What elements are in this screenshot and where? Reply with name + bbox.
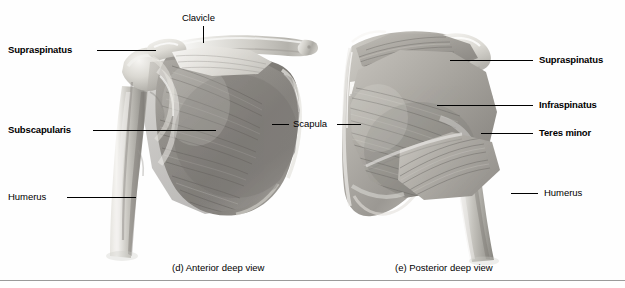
label-scapula: Scapula <box>293 118 327 129</box>
label-infraspinatus: Infraspinatus <box>539 99 597 110</box>
label-teres-minor: Teres minor <box>539 127 591 138</box>
label-humerus-anterior: Humerus <box>8 191 46 202</box>
label-humerus-posterior: Humerus <box>544 187 582 198</box>
anatomy-artwork <box>0 0 625 288</box>
label-subscapularis: Subscapularis <box>8 124 71 135</box>
caption-posterior: (e) Posterior deep view <box>395 262 493 273</box>
anatomy-figure: Supraspinatus Subscapularis Humerus Clav… <box>0 0 625 288</box>
label-supraspinatus-posterior: Supraspinatus <box>539 54 603 65</box>
label-clavicle: Clavicle <box>182 12 215 23</box>
bottom-divider <box>0 280 625 281</box>
caption-anterior: (d) Anterior deep view <box>172 262 264 273</box>
anterior-specimen-art <box>106 35 318 261</box>
subscapularis-fibres <box>140 50 310 225</box>
posterior-specimen-art <box>342 28 508 266</box>
label-supraspinatus-anterior: Supraspinatus <box>8 44 72 55</box>
